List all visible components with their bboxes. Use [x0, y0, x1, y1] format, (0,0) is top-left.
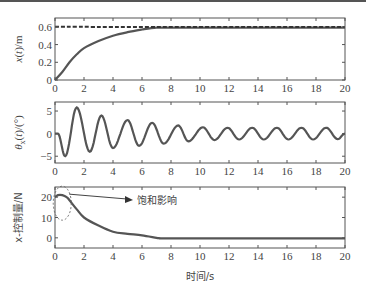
x-tick-label: 14 — [253, 250, 265, 262]
x-tick-label: 2 — [81, 165, 87, 177]
x-tick-label: 4 — [110, 82, 116, 94]
chart-canvas: 0246810121416182000.20.40.6x(t)/m0246810… — [0, 0, 366, 296]
x-tick-label: 6 — [139, 82, 145, 94]
x-tick-label: 2 — [81, 82, 87, 94]
x-tick-label: 12 — [224, 82, 235, 94]
saturation-ellipse — [53, 186, 71, 220]
data-line — [55, 28, 345, 80]
x-tick-label: 20 — [340, 82, 352, 94]
y-tick-label: 0.6 — [38, 21, 52, 33]
data-line — [55, 107, 345, 156]
y-tick-label: 5 — [47, 105, 53, 117]
x-tick-label: 18 — [311, 250, 323, 262]
x-tick-label: 10 — [195, 165, 207, 177]
axes-frame — [55, 102, 345, 163]
y-tick-label: 20 — [41, 191, 53, 203]
x-tick-label: 20 — [340, 165, 352, 177]
y-tick-label: 0 — [47, 128, 53, 140]
x-tick-label: 2 — [81, 250, 87, 262]
y-axis-label: x(t)/m — [12, 35, 25, 63]
x-tick-label: 4 — [110, 250, 116, 262]
x-tick-label: 20 — [340, 250, 352, 262]
y-tick-label: 0.2 — [38, 56, 52, 68]
x-tick-label: 12 — [224, 165, 235, 177]
y-tick-label: 0.4 — [38, 39, 52, 51]
x-tick-label: 18 — [311, 165, 323, 177]
x-tick-label: 8 — [168, 165, 174, 177]
y-tick-label: 0 — [47, 74, 53, 86]
x-tick-label: 18 — [311, 82, 323, 94]
x-tick-label: 0 — [52, 165, 58, 177]
annotation-arrow — [69, 194, 127, 199]
x-tick-label: 6 — [139, 165, 145, 177]
x-tick-label: 16 — [282, 250, 294, 262]
x-tick-label: 10 — [195, 82, 207, 94]
x-tick-label: 6 — [139, 250, 145, 262]
data-line — [55, 195, 345, 239]
x-tick-label: 8 — [168, 250, 174, 262]
control-plot: 0246810121416182001020x-控制量/N时间/s饱和影响 — [12, 186, 351, 282]
x-axis-label: 时间/s — [186, 270, 215, 282]
y-axis-label: θx(t)/(°) — [12, 115, 27, 150]
y-axis-label: x-控制量/N — [12, 192, 24, 242]
x-tick-label: 12 — [224, 250, 235, 262]
annotation-label: 饱和影响 — [137, 194, 177, 206]
x-tick-label: 14 — [253, 82, 265, 94]
position-plot: 0246810121416182000.20.40.6x(t)/m — [12, 18, 351, 94]
x-tick-label: 16 — [282, 165, 294, 177]
y-tick-label: 0 — [47, 232, 53, 244]
x-tick-label: 0 — [52, 250, 58, 262]
arrowhead-icon — [125, 196, 133, 203]
x-tick-label: 4 — [110, 165, 116, 177]
x-tick-label: 0 — [52, 82, 58, 94]
angle-plot: 02468101214161820−505θx(t)/(°) — [12, 102, 351, 177]
x-tick-label: 10 — [195, 250, 207, 262]
x-tick-label: 14 — [253, 165, 265, 177]
y-tick-label: 10 — [41, 212, 53, 224]
x-tick-label: 16 — [282, 82, 294, 94]
x-tick-label: 8 — [168, 82, 174, 94]
y-tick-label: −5 — [40, 150, 52, 162]
